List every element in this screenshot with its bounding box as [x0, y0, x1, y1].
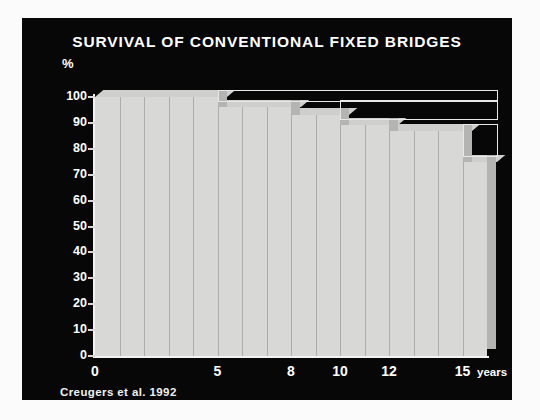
y-axis-tick — [88, 200, 95, 202]
x-axis-tick-label: 10 — [325, 363, 355, 379]
slide-panel: SURVIVAL OF CONVENTIONAL FIXED BRIDGES %… — [22, 18, 512, 400]
solid-right-side-face — [487, 155, 496, 349]
y-axis-tick-label: 50 — [53, 219, 87, 233]
y-axis-tick — [88, 148, 95, 150]
source-caption: Creugers et al. 1992 — [60, 386, 177, 398]
back-wall-outline — [463, 124, 499, 157]
year-gridline — [218, 107, 219, 356]
y-axis-tick-label: 20 — [53, 296, 87, 310]
step-riser-face — [291, 100, 300, 115]
year-gridline — [193, 97, 194, 356]
back-wall-outline — [340, 100, 498, 120]
step-front-face — [95, 97, 218, 356]
year-gridline — [438, 131, 439, 356]
x-axis-tick-label: 12 — [374, 363, 404, 379]
x-axis-tick-label: 5 — [203, 363, 233, 379]
y-axis-tick — [88, 174, 95, 176]
year-gridline — [242, 107, 243, 356]
x-axis-tick-label: 8 — [276, 363, 306, 379]
y-axis-tick-label: 40 — [53, 244, 87, 258]
y-axis-tick — [88, 303, 95, 305]
year-gridline — [316, 115, 317, 356]
y-axis-tick-label: 100 — [53, 89, 87, 103]
year-gridline — [120, 97, 121, 356]
step-front-face — [218, 107, 292, 356]
y-axis-tick — [88, 122, 95, 124]
y-axis-tick-label: 90 — [53, 115, 87, 129]
x-axis-line — [93, 356, 489, 358]
year-gridline — [169, 97, 170, 356]
year-gridline — [340, 125, 341, 356]
x-axis-unit-label: years — [477, 366, 507, 378]
plot-area: 0102030405060708090100058101215years — [22, 18, 512, 400]
y-axis-tick — [88, 226, 95, 228]
y-axis-tick-label: 60 — [53, 193, 87, 207]
year-gridline — [144, 97, 145, 356]
y-axis-tick — [88, 329, 95, 331]
figure-root: SURVIVAL OF CONVENTIONAL FIXED BRIDGES %… — [0, 0, 540, 420]
step-front-face — [389, 131, 463, 356]
y-axis-tick — [88, 355, 95, 357]
y-axis-tick — [88, 251, 95, 253]
x-axis-tick-label: 0 — [80, 363, 110, 379]
x-axis-tick-label: 15 — [448, 363, 478, 379]
step-top-surface — [95, 90, 235, 97]
year-gridline — [365, 125, 366, 356]
y-axis-tick-label: 10 — [53, 322, 87, 336]
year-gridline — [389, 131, 390, 356]
y-axis-tick — [88, 277, 95, 279]
year-gridline — [291, 115, 292, 356]
y-axis-tick-label: 0 — [53, 348, 87, 362]
y-axis-tick-label: 70 — [53, 167, 87, 181]
y-axis-tick-label: 30 — [53, 270, 87, 284]
step-front-face — [463, 162, 488, 356]
year-gridline — [267, 107, 268, 356]
year-gridline — [414, 131, 415, 356]
year-gridline — [463, 162, 464, 356]
y-axis-tick-label: 80 — [53, 141, 87, 155]
